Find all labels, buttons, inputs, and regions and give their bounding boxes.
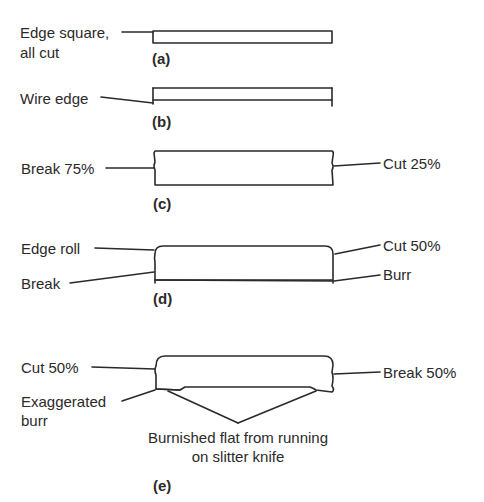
figure-a-strip [122,31,332,43]
figure-d-strip [70,245,380,283]
label-burr-e: burr [21,412,48,429]
label-cut-25: Cut 25% [383,155,441,172]
label-edge-roll: Edge roll [21,240,80,257]
label-wire-edge: Wire edge [20,90,88,107]
figure-c-strip [106,151,380,185]
label-edge-square: Edge square, [20,24,109,41]
figure-c-tag: (c) [153,195,171,212]
figure-d-tag: (d) [153,290,172,307]
label-all-cut: all cut [20,44,59,61]
label-cut-50-e: Cut 50% [21,359,79,376]
figure-e-strip [92,356,380,423]
label-burnished-flat: Burnished flat from running [118,429,358,446]
label-cut-50-d: Cut 50% [383,237,441,254]
label-exaggerated: Exaggerated [21,393,106,410]
figure-e-tag: (e) [153,477,171,494]
label-break-75: Break 75% [21,160,94,177]
label-burr: Burr [383,266,411,283]
figure-a-tag: (a) [152,50,170,67]
label-break: Break [21,275,60,292]
label-break-50: Break 50% [383,364,456,381]
figure-b-strip [101,88,332,106]
figure-b-tag: (b) [152,113,171,130]
label-slitter-knife: on slitter knife [118,448,358,465]
